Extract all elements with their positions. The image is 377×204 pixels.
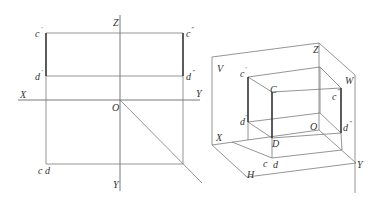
x-axis-line-3d: [212, 130, 319, 145]
w-plane-label: W: [345, 75, 355, 86]
box-top-front: [272, 88, 341, 92]
right-pictorial: V W H Z X Y O c ′ d ′ C D c ″ d ″ c d: [212, 43, 364, 193]
c-h-label: c: [263, 158, 268, 169]
y-axis-bottom-label: Y: [113, 179, 120, 190]
x-axis-label: X: [19, 89, 27, 100]
h-projection-front: [272, 150, 342, 158]
y-axis-line-3d: [319, 130, 356, 163]
w-plane-outline: [319, 43, 355, 193]
box-top-right: [320, 67, 341, 88]
diagonal-45-line: [120, 100, 202, 183]
c-dbl-prime-mark: ″: [191, 25, 194, 33]
left-projection: Z X Y O Y c ′ d ′ c ″ d ″ c d: [18, 15, 203, 191]
v-plane-outline: [212, 43, 319, 145]
origin-label: O: [112, 102, 119, 113]
box-top-left: [248, 77, 272, 92]
point-C-label: C: [270, 84, 277, 95]
c-prime-label: c: [35, 28, 40, 39]
projection-diagram: Z X Y O Y c ′ d ′ c ″ d ″ c d: [0, 0, 377, 204]
d-prime-mark: ′: [41, 68, 43, 76]
box-mid-left: [248, 122, 272, 138]
h-plane-outline: [212, 145, 356, 177]
y-axis-label-3d: Y: [357, 159, 364, 170]
d-prime-mark-3d: ′: [245, 113, 247, 121]
v-plane-label: V: [217, 63, 225, 74]
box-mid-right: [320, 113, 341, 133]
z-axis-label: Z: [113, 17, 119, 28]
d-dbl-prime-mark-3d: ″: [349, 119, 352, 127]
d-dbl-prime-to-y-link: [341, 133, 342, 150]
y-axis-right-label: Y: [196, 88, 203, 99]
c-prime-mark: ′: [41, 25, 43, 33]
h-projection-left: [232, 142, 272, 158]
box-top-back: [248, 67, 320, 77]
h-plane-label: H: [246, 169, 255, 180]
c-dbl-prime-mark-3d: ″: [337, 87, 340, 95]
c-prime-mark-3d: ′: [245, 65, 247, 73]
d-dbl-prime-mark: ″: [192, 68, 195, 76]
d-h-label: d: [273, 159, 279, 170]
origin-label-3d: O: [310, 121, 317, 132]
x-axis-label-3d: X: [215, 132, 223, 143]
point-D-label: D: [271, 138, 280, 149]
z-axis-label-3d: Z: [313, 44, 319, 55]
cd-top-view-label: c d: [38, 165, 51, 176]
